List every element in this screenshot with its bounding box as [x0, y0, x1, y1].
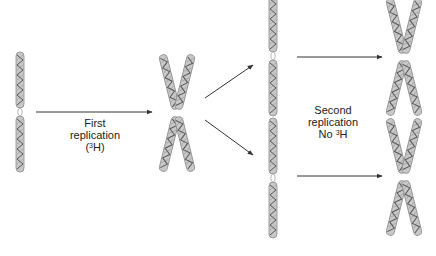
second-replication-label: Second replication No 3H	[293, 104, 373, 140]
separated-chromatid-top	[269, 0, 277, 116]
first-label-line3: (3H)	[55, 141, 135, 153]
second-label-line1: Second	[293, 104, 373, 116]
first-replication-label: First replication (3H)	[55, 117, 135, 153]
split-arrow-up	[205, 65, 253, 98]
first-replicated-chromosome	[159, 54, 196, 172]
second-label-line3: No 3H	[293, 128, 373, 140]
split-arrow-down	[205, 120, 253, 155]
separated-chromatid-bottom	[269, 118, 277, 238]
first-label-line1: First	[55, 117, 135, 129]
original-chromosome	[16, 52, 24, 172]
second-replicated-chromosome-top	[386, 0, 423, 116]
second-replicated-chromosome-bottom	[386, 118, 423, 236]
first-label-line2: replication	[55, 129, 135, 141]
second-label-line2: replication	[293, 116, 373, 128]
